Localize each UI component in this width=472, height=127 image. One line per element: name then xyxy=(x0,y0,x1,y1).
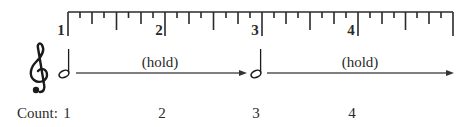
half-note-icon xyxy=(250,49,262,79)
hold-arrow xyxy=(267,70,454,76)
treble-clef-icon xyxy=(31,44,47,94)
count-number-3: 3 xyxy=(252,105,260,121)
count-label: Count: xyxy=(17,105,58,121)
beat-ruler xyxy=(68,12,453,36)
half-note-icon xyxy=(58,49,70,79)
count-number-4: 4 xyxy=(348,105,356,121)
hold-arrow xyxy=(76,70,247,76)
count-number-1: 1 xyxy=(63,105,71,121)
count-number-2: 2 xyxy=(158,105,166,121)
rhythm-diagram: 1 2 3 4 (hold) (hold) Count: 1 2 3 4 xyxy=(0,0,472,127)
beat-label-4: 4 xyxy=(347,22,355,38)
beat-label-2: 2 xyxy=(155,22,163,38)
hold-label: (hold) xyxy=(342,54,379,71)
hold-label: (hold) xyxy=(142,54,179,71)
beat-label-1: 1 xyxy=(57,22,65,38)
beat-label-3: 3 xyxy=(251,22,259,38)
